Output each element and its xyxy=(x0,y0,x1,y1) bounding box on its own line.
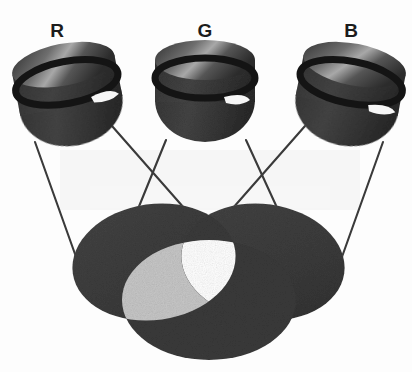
lamp-g xyxy=(155,40,255,142)
lamp-r xyxy=(8,34,130,155)
figure-canvas: R G B xyxy=(0,0,412,372)
paper-showthrough xyxy=(60,150,360,210)
lamp-label-b: B xyxy=(344,20,358,41)
lamp-label-g: G xyxy=(198,20,213,41)
lamp-b xyxy=(288,34,410,155)
lamp-label-r: R xyxy=(50,20,64,41)
rgb-mixing-figure: R G B xyxy=(0,0,412,372)
